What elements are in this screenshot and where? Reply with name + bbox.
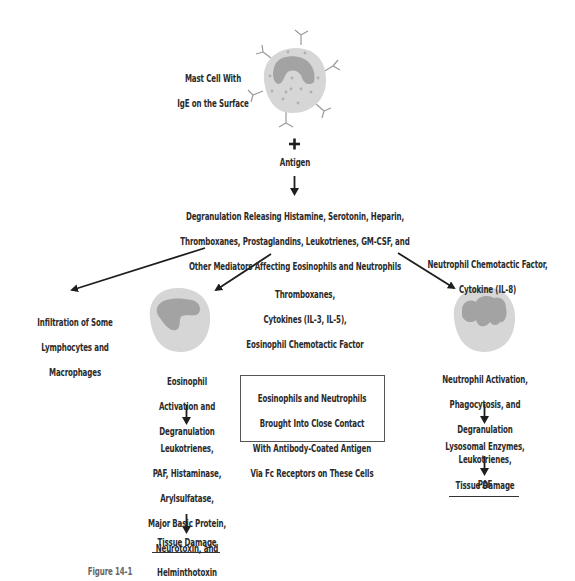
figure-caption: Figure 14-1 <box>69 566 151 578</box>
fc-receptor-contact-text: Eosinophils and Neutrophils Brought Into… <box>246 381 377 493</box>
eosinophil-tissue-damage-text: Tissue Damage <box>146 537 228 549</box>
lymphocyte-infiltration-text: Infiltration of Some Lymphocytes and Mac… <box>22 305 129 392</box>
neutrophil-tissue-damage-text: Tissue Damage <box>444 480 526 492</box>
eosinophil-mediators-text: Thromboxanes, Cytokines (IL-3, IL-5), Eo… <box>235 277 374 364</box>
eosinophil-cell-icon <box>150 288 210 352</box>
mast-cell-label: Mast Cell With IgE on the Surface <box>152 61 275 123</box>
eosinophil-outcome-underline <box>152 552 220 553</box>
arrow-down-icon <box>290 176 299 196</box>
neutrophil-outcome-underline <box>449 496 519 497</box>
antigen-label: Antigen <box>254 157 336 169</box>
plus-icon <box>289 139 300 150</box>
eosinophil-products-text: Leukotrienes, PAF, Histaminase, Arylsulf… <box>130 431 245 581</box>
neutrophil-mediators-text: Neutrophil Chemotactic Factor, Cytokine … <box>416 247 560 309</box>
